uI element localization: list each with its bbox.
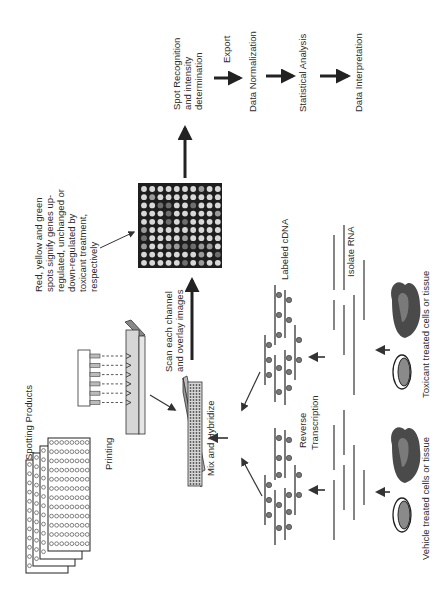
- toxicant-label: Toxicant treated cells or tissue: [420, 271, 431, 398]
- spot-recognition-label-3: determination: [193, 52, 204, 110]
- labeled-cdna-label: Labeled cDNA: [279, 218, 290, 280]
- hybridized-slide: [183, 376, 205, 487]
- pipeline: Spot Recognition and intensity determina…: [171, 31, 364, 112]
- data-interpretation-label: Data Interpretation: [353, 33, 364, 112]
- toxicant-mouse-icon: [391, 282, 420, 338]
- annotation-line-2: spots signify genes up-: [44, 195, 55, 292]
- vehicle-to-mix-arrow: [242, 459, 262, 496]
- vehicle-dish-icon: [393, 498, 411, 532]
- print-to-hybridize-arrow: [150, 395, 175, 410]
- annotation-line-4: down-regulated by: [66, 214, 77, 292]
- spot-recognition-label-2: and intensity: [182, 56, 193, 110]
- scan-label-1: Scan each channel: [163, 291, 174, 372]
- microarray-image: [138, 183, 222, 268]
- spotting-plates: [26, 438, 90, 573]
- print-pin-head: [78, 350, 131, 406]
- data-normalization-label: Data Normalization: [247, 31, 258, 112]
- annotation-line-3: regulated, unchanged or: [55, 189, 66, 292]
- annotation-line-1: Red, yellow and green: [33, 197, 44, 292]
- reverse-transcription-label-1: Reverse: [297, 413, 308, 448]
- annotation-line-6: respectively: [88, 242, 99, 292]
- annotation-pointer-arrow: [100, 232, 134, 248]
- color-annotation: Red, yellow and green spots signify gene…: [33, 189, 134, 292]
- annotation-line-5: toxicant treatment,: [77, 214, 88, 292]
- toxicant-dish-icon: [393, 355, 411, 389]
- statistical-analysis-label: Statistical Analysis: [297, 34, 308, 112]
- toxicant-to-mix-arrow: [242, 372, 260, 410]
- scan-label-2: and overlay images: [174, 289, 185, 372]
- spotting-products-label: Spotting Products: [23, 385, 34, 460]
- spot-recognition-label: Spot Recognition: [171, 38, 182, 110]
- printing-label: Printing: [103, 438, 114, 470]
- export-label: Export: [221, 35, 232, 63]
- isolate-rna-label: Isolate RNA: [345, 226, 356, 277]
- reverse-transcription-label-2: Transcription: [309, 395, 320, 450]
- printing-slide: [125, 320, 145, 434]
- vehicle-mouse-icon: [391, 427, 420, 483]
- vehicle-label: Vehicle treated cells or tissue: [420, 437, 431, 560]
- microarray-workflow-diagram: Spot Recognition and intensity determina…: [0, 0, 442, 590]
